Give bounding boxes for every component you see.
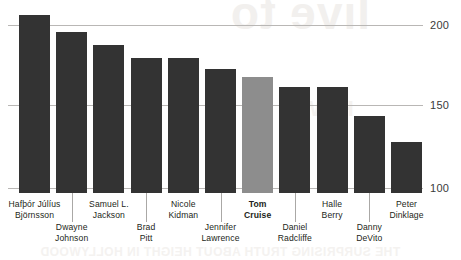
label-leader-line bbox=[221, 193, 222, 222]
bar-label-tom-cruise: Tom Cruise bbox=[224, 199, 292, 220]
bar-label-hafrjlus-bjrnsson: Hafþór Júlíus Björnsson bbox=[1, 199, 69, 220]
bar-tom-cruise[interactable] bbox=[242, 77, 273, 193]
bar-label-jennifer-lawrence: Jennifer Lawrence bbox=[187, 222, 255, 243]
bar-daniel-radcliffe[interactable] bbox=[279, 87, 310, 193]
bar-peter-dinklage[interactable] bbox=[391, 142, 422, 193]
bar-chart: 200150100 Hafþór Júlíus BjörnssonDwayne … bbox=[0, 0, 461, 260]
label-leader-line bbox=[72, 193, 73, 222]
bar-nicole-kidman[interactable] bbox=[168, 58, 199, 193]
bar-label-daniel-radcliffe: Daniel Radcliffe bbox=[261, 222, 329, 243]
y-tick-label-200: 200 bbox=[430, 20, 449, 31]
bar-label-nicole-kidman: Nicole Kidman bbox=[149, 199, 217, 220]
bar-label-peter-dinklage: Peter Dinklage bbox=[373, 199, 441, 220]
bar-jennifer-lawrence[interactable] bbox=[205, 69, 236, 193]
bar-danny-devito[interactable] bbox=[354, 116, 385, 193]
bar-label-brad-pitt: Brad Pitt bbox=[112, 222, 180, 243]
y-tick-label-150: 150 bbox=[430, 100, 449, 111]
bar-label-dwayne-johnson: Dwayne Johnson bbox=[38, 222, 106, 243]
bar-hafrjlus-bjrnsson[interactable] bbox=[19, 15, 50, 193]
bar-label-samuell-jackson: Samuel L. Jackson bbox=[75, 199, 143, 220]
bar-halle-berry[interactable] bbox=[317, 87, 348, 193]
label-leader-line bbox=[146, 193, 147, 222]
bar-dwayne-johnson[interactable] bbox=[56, 32, 87, 193]
bar-samuell-jackson[interactable] bbox=[93, 45, 124, 193]
label-leader-line bbox=[369, 193, 370, 222]
label-leader-line bbox=[295, 193, 296, 222]
y-tick-label-100: 100 bbox=[430, 183, 449, 194]
gridline-200 bbox=[8, 25, 423, 26]
bar-label-halle-berry: Halle Berry bbox=[298, 199, 366, 220]
bar-label-danny-devito: Danny DeVito bbox=[335, 222, 403, 243]
bar-brad-pitt[interactable] bbox=[131, 58, 162, 193]
